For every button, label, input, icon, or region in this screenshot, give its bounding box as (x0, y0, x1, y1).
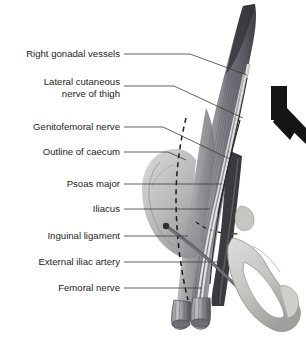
label-genitofemoral-nerve: Genitofemoral nerve (33, 121, 120, 132)
label-femoral-nerve: Femoral nerve (58, 282, 120, 293)
label-psoas-major: Psoas major (67, 178, 121, 189)
label-outline-of-caecum: Outline of caecum (43, 146, 120, 157)
label-iliacus: Iliacus (93, 203, 120, 214)
anatomy-figure: Right gonadal vessels Lateral cutaneous … (0, 0, 306, 338)
label-lateral-cutaneous-nerve-of-thigh-line2: nerve of thigh (62, 88, 120, 99)
label-external-iliac-artery: External iliac artery (38, 256, 120, 267)
label-right-gonadal-vessels: Right gonadal vessels (26, 48, 120, 59)
inguinal-ligament-attachment (163, 223, 169, 229)
label-lateral-cutaneous-nerve-of-thigh-line1: Lateral cutaneous (44, 76, 120, 87)
label-inguinal-ligament: Inguinal ligament (47, 230, 120, 241)
